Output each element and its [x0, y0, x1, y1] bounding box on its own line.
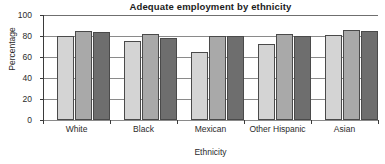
- bar: [276, 34, 293, 120]
- x-tick-label: Asian: [334, 124, 355, 134]
- bar: [343, 30, 360, 120]
- x-tick-mark: [311, 120, 312, 124]
- x-tick-label: White: [66, 124, 88, 134]
- plot-area: 020406080100: [43, 15, 378, 120]
- bar-group: [191, 15, 244, 120]
- bar: [361, 31, 378, 120]
- gridline: [43, 120, 378, 121]
- y-tick-label: 0: [0, 116, 32, 125]
- y-tick-mark: [40, 15, 44, 16]
- x-axis-title: Ethnicity: [43, 147, 378, 157]
- y-axis-line: [43, 15, 44, 120]
- x-tick-mark: [110, 120, 111, 124]
- x-tick-mark: [177, 120, 178, 124]
- x-tick-label: Mexican: [195, 124, 227, 134]
- y-tick-label: 20: [0, 95, 32, 104]
- y-tick-label: 80: [0, 32, 32, 41]
- bar: [142, 34, 159, 120]
- x-tick-mark: [244, 120, 245, 124]
- bar-group: [325, 15, 378, 120]
- x-tick-label: Other Hispanic: [249, 124, 305, 134]
- bar-chart: Adequate employment by ethnicity Percent…: [0, 0, 385, 164]
- x-tick-label: Black: [133, 124, 154, 134]
- bar: [227, 36, 244, 120]
- bar-group: [258, 15, 311, 120]
- bar: [258, 44, 275, 120]
- y-tick-mark: [40, 99, 44, 100]
- bar: [191, 52, 208, 120]
- bar-group: [124, 15, 177, 120]
- bar: [209, 36, 226, 120]
- x-tick-mark: [43, 120, 44, 124]
- bar-group: [57, 15, 110, 120]
- y-tick-label: 100: [0, 11, 32, 20]
- bar: [325, 35, 342, 120]
- chart-title: Adequate employment by ethnicity: [43, 1, 378, 12]
- bar: [294, 36, 311, 120]
- x-tick-mark: [378, 120, 379, 124]
- y-tick-mark: [40, 57, 44, 58]
- y-tick-mark: [40, 36, 44, 37]
- bar: [160, 38, 177, 120]
- y-axis-title: Percentage: [7, 17, 17, 81]
- bar: [57, 36, 74, 120]
- bar: [124, 41, 141, 120]
- bar: [75, 31, 92, 120]
- y-tick-label: 40: [0, 74, 32, 83]
- bar: [93, 32, 110, 120]
- y-tick-mark: [40, 78, 44, 79]
- y-tick-label: 60: [0, 53, 32, 62]
